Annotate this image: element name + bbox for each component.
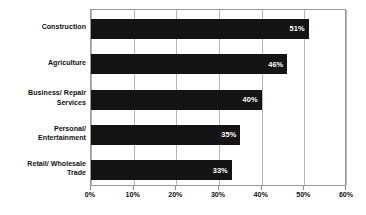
x-axis-tick	[218, 186, 219, 190]
bar-value-label: 40%	[243, 95, 262, 104]
x-axis-tick	[133, 186, 134, 190]
x-axis-tick-label: 30%	[201, 191, 235, 199]
x-axis-tick	[345, 186, 346, 190]
x-axis-tick	[303, 186, 304, 190]
gridline	[346, 10, 347, 185]
x-axis-tick-label: 50%	[286, 191, 320, 199]
bar: 35%	[91, 125, 240, 145]
x-axis-tick-label: 20%	[158, 191, 192, 199]
x-axis-tick	[90, 186, 91, 190]
bar-chart: Construction Agriculture Business/ Repai…	[0, 0, 366, 215]
x-axis-tick	[261, 186, 262, 190]
bar: 33%	[91, 160, 232, 180]
bar: 51%	[91, 19, 309, 39]
x-axis-tick-label: 60%	[329, 191, 363, 199]
plot-area: 51% 46% 40% 35% 33%	[90, 9, 346, 186]
x-axis-tick	[175, 186, 176, 190]
category-label: Personal/ Entertainment	[0, 125, 86, 143]
category-axis-labels: Construction Agriculture Business/ Repai…	[0, 9, 86, 186]
x-axis-tick-label: 0%	[73, 191, 107, 199]
category-label: Construction	[0, 23, 86, 32]
bar-value-label: 33%	[213, 166, 232, 175]
x-axis: 0% 10% 20% 30% 40% 50% 60%	[90, 186, 346, 214]
category-label: Retail/ Wholesale Trade	[0, 160, 86, 178]
bar: 40%	[91, 90, 262, 110]
x-axis-tick-label: 10%	[116, 191, 150, 199]
bar-value-label: 51%	[290, 24, 309, 33]
category-label: Business/ Repair Services	[0, 89, 86, 107]
bar: 46%	[91, 54, 287, 74]
bar-value-label: 35%	[221, 130, 240, 139]
x-axis-tick-label: 40%	[244, 191, 278, 199]
category-label: Agriculture	[0, 59, 86, 68]
bar-value-label: 46%	[268, 60, 287, 69]
